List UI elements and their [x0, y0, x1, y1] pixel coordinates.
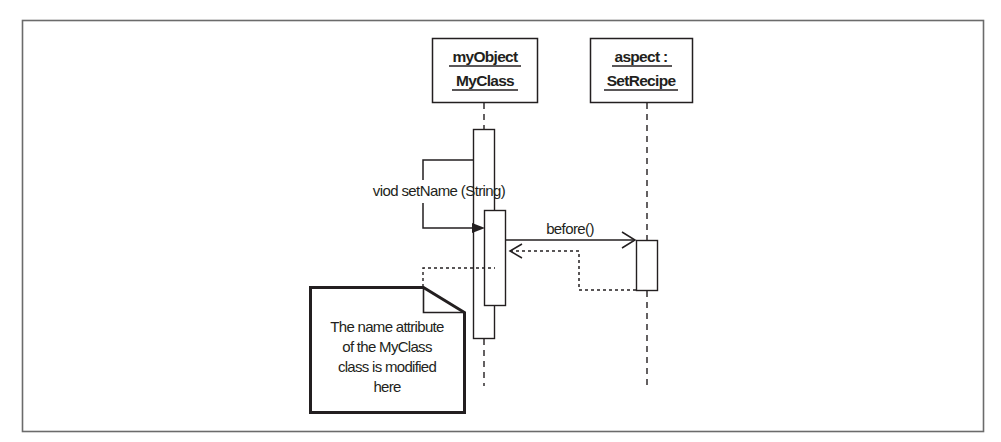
message-setname-path-bottom	[423, 203, 472, 228]
lifeline-myobject-class: MyClass	[456, 72, 514, 89]
lifeline-aspect-instance: aspect :	[615, 48, 668, 65]
note-line-3: class is modified	[338, 358, 436, 375]
note-line-2: of the MyClass	[342, 338, 432, 355]
note-line-4: here	[373, 378, 401, 395]
return-line	[511, 251, 636, 290]
note-line-1: The name attribute	[330, 318, 444, 335]
message-before[interactable]: before()	[506, 220, 635, 248]
message-setname-path-top	[423, 160, 473, 180]
activation-bar-myobject-inner[interactable]	[485, 211, 506, 306]
lifeline-aspect-class: SetRecipe	[607, 72, 677, 89]
lifeline-myobject-instance: myObject	[452, 48, 518, 65]
lifeline-aspect: aspect : SetRecipe	[591, 39, 693, 387]
message-setname-label: viod setName (String)	[373, 182, 506, 199]
sequence-diagram: myObject MyClass aspect : SetRecipe viod…	[0, 0, 1001, 442]
activation-bar-aspect[interactable]	[637, 241, 658, 291]
message-before-label: before()	[546, 220, 594, 237]
note[interactable]: The name attribute of the MyClass class …	[311, 288, 465, 413]
message-before-return[interactable]	[510, 244, 636, 290]
